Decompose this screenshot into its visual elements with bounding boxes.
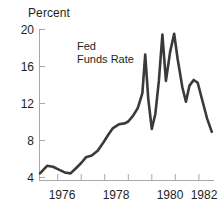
fed-funds-rate-chart: Percent 20 16 12 8 4 1976 1978 1980 1982… — [0, 0, 224, 212]
fed-funds-rate-line — [40, 34, 212, 174]
chart-canvas — [0, 0, 224, 212]
axis-lines — [40, 29, 215, 181]
y-axis-ticks — [40, 30, 46, 178]
x-axis-ticks — [58, 174, 199, 180]
